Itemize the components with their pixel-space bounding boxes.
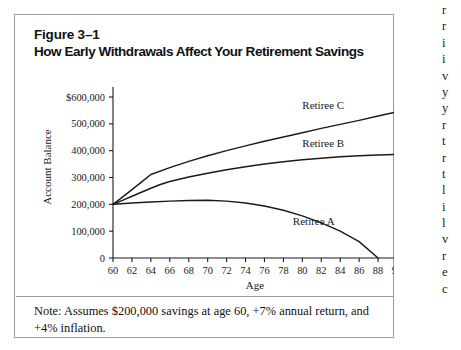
note-separator	[16, 296, 394, 297]
margin-text-line: r	[442, 18, 461, 34]
y-axis-tick-label: 0	[100, 253, 105, 264]
series-line-retiree-c	[113, 112, 394, 205]
margin-text-line: i	[442, 199, 461, 215]
page-canvas: Figure 3–1 How Early Withdrawals Affect …	[0, 0, 461, 350]
margin-text-line: i	[442, 35, 461, 51]
x-axis-title: Age	[246, 279, 264, 291]
margin-text-line: v	[442, 68, 461, 84]
margin-text-line: r	[442, 150, 461, 166]
series-label-retiree-c: Retiree C	[302, 99, 344, 111]
y-axis-tick-label: 400,000	[71, 145, 105, 156]
x-axis-tick-label: 76	[259, 265, 269, 276]
x-axis-tick-label: 78	[278, 265, 288, 276]
x-axis-tick-label: 82	[316, 265, 326, 276]
y-axis-title: Account Balance	[41, 107, 53, 227]
x-axis-tick-label: 74	[240, 265, 251, 276]
x-axis-tick-label: 84	[335, 265, 346, 276]
series-label-retiree-a: Retiree A	[293, 215, 335, 227]
figure-note: Note: Assumes $200,000 savings at age 60…	[34, 303, 379, 336]
margin-text-line: y	[442, 100, 461, 116]
x-axis-tick-label: 68	[184, 265, 194, 276]
note-line-1: Note: Assumes $200,000 savings at age 60…	[34, 304, 348, 318]
y-axis-tick-label: 500,000	[71, 118, 105, 129]
y-axis-tick-label: 200,000	[71, 199, 105, 210]
figure-box: Figure 3–1 How Early Withdrawals Affect …	[14, 14, 394, 338]
x-axis-tick-label: 70	[202, 265, 212, 276]
series-label-retiree-b: Retiree B	[302, 137, 344, 149]
x-axis-tick-label: 86	[354, 265, 364, 276]
margin-text-line: l	[442, 182, 461, 198]
series-line-retiree-a	[113, 200, 378, 258]
figure-label: Figure 3–1	[34, 27, 100, 42]
retirement-savings-line-chart: 0100,000200,000300,000400,000500,000$600…	[15, 65, 394, 293]
margin-text-line: y	[442, 84, 461, 100]
margin-text-line: r	[442, 117, 461, 133]
x-axis-tick-label: 88	[373, 265, 383, 276]
x-axis-tick-label: 66	[165, 265, 175, 276]
margin-text-line: r	[442, 248, 461, 264]
page-body-text-column: rriivyyrtrtlilvrec	[442, 2, 461, 350]
margin-text-line: c	[442, 281, 461, 297]
series-line-retiree-b	[113, 154, 394, 204]
x-axis-tick-label: 80	[297, 265, 307, 276]
y-axis-tick-label: $600,000	[66, 92, 105, 103]
margin-text-line: l	[442, 215, 461, 231]
margin-text-line: v	[442, 231, 461, 247]
figure-title: How Early Withdrawals Affect Your Retire…	[34, 44, 364, 59]
x-axis-tick-label: 60	[108, 265, 118, 276]
x-axis-tick-label: 64	[146, 265, 157, 276]
y-axis-tick-label: 300,000	[71, 172, 105, 183]
margin-text-line: e	[442, 264, 461, 280]
margin-text-line: t	[442, 133, 461, 149]
x-axis-tick-label: 72	[221, 265, 231, 276]
x-axis-tick-label: 62	[127, 265, 137, 276]
chart-area: Account Balance 0100,000200,000300,00040…	[15, 65, 394, 293]
margin-text-line: i	[442, 51, 461, 67]
margin-text-line: t	[442, 166, 461, 182]
y-axis-tick-label: 100,000	[71, 226, 105, 237]
x-axis-tick-label: 90	[392, 265, 394, 276]
margin-text-line: r	[442, 2, 461, 18]
